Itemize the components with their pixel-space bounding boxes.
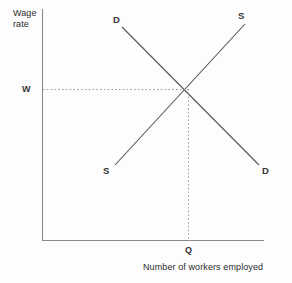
demand-curve-label-bottom: D <box>262 166 269 176</box>
supply-curve <box>115 24 245 165</box>
demand-curve <box>122 27 259 165</box>
x-axis-title: Number of workers employed <box>143 262 263 272</box>
quantity-equilibrium-label: Q <box>185 245 192 255</box>
demand-curve-label-top: D <box>113 15 120 25</box>
y-axis-title: Wage rate <box>13 8 47 29</box>
supply-demand-chart: Wage rate Number of workers employed W Q… <box>0 0 292 283</box>
chart-canvas <box>0 0 292 283</box>
supply-curve-label-bottom: S <box>103 166 109 176</box>
supply-curve-label-top: S <box>238 11 244 21</box>
wage-equilibrium-label: W <box>22 84 31 94</box>
